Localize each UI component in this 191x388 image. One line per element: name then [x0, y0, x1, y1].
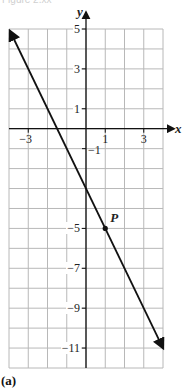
point-p-marker	[103, 226, 108, 231]
y-axis-label: y	[77, 5, 83, 18]
y-tick-label: 5	[73, 23, 81, 35]
y-tick-label: −7	[66, 262, 81, 274]
y-tick-label: 1	[73, 103, 81, 115]
y-tick-label: −1	[88, 144, 101, 156]
x-tick-label: 3	[141, 133, 147, 145]
axes	[9, 12, 174, 368]
point-p-label: P	[110, 211, 118, 224]
x-tick-label: 1	[102, 133, 108, 145]
y-tick-label: 3	[73, 63, 81, 75]
y-tick-label: −11	[61, 342, 81, 354]
x-axis-label: x	[175, 122, 182, 135]
panel-label: (a)	[1, 373, 16, 388]
y-tick-label: −5	[66, 222, 81, 234]
y-tick-label: −9	[66, 302, 81, 314]
coordinate-graph	[0, 0, 191, 388]
x-tick-label: −3	[19, 133, 32, 145]
